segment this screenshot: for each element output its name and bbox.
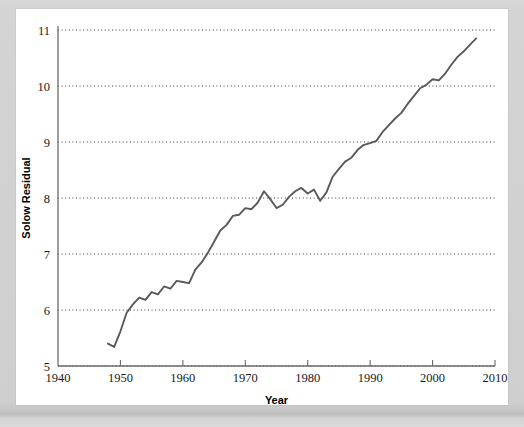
x-tick-label-1960: 1960	[170, 371, 195, 385]
chart-page: 19401950196019701980199020002010 5678910…	[16, 9, 508, 405]
x-tick-labels-group: 19401950196019701980199020002010	[46, 371, 508, 385]
x-tick-label-2010: 2010	[483, 371, 508, 385]
x-tick-label-1980: 1980	[295, 371, 320, 385]
x-tick-label-1970: 1970	[233, 371, 258, 385]
x-tick-marks-group	[120, 360, 495, 366]
y-axis-title: Solow Residual	[20, 157, 32, 238]
x-axis-title: Year	[265, 394, 289, 405]
axes-group	[58, 26, 495, 366]
y-tick-labels-group: 567891011	[38, 24, 51, 374]
y-tick-label-7: 7	[44, 248, 50, 262]
chart-figure: 19401950196019701980199020002010 5678910…	[16, 9, 508, 405]
y-tick-label-10: 10	[38, 80, 51, 94]
y-tick-label-9: 9	[44, 136, 50, 150]
y-tick-label-6: 6	[44, 304, 50, 318]
data-series-line	[108, 38, 476, 347]
y-tick-label-8: 8	[44, 192, 50, 206]
x-tick-label-2000: 2000	[420, 371, 445, 385]
x-tick-label-1990: 1990	[358, 371, 383, 385]
gridlines-group	[58, 30, 495, 366]
line-chart-svg: 19401950196019701980199020002010 5678910…	[16, 9, 508, 405]
x-tick-label-1950: 1950	[108, 371, 133, 385]
y-tick-label-11: 11	[38, 24, 50, 38]
y-tick-label-5: 5	[44, 360, 50, 374]
